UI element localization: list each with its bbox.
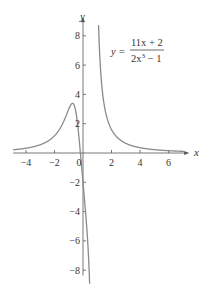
x-tick-label: −4: [21, 157, 32, 168]
equation-label: y = 11x + 2 2x3 − 1: [110, 37, 164, 64]
curve-left-branch: [13, 103, 90, 283]
x-tick-label: 0: [77, 157, 82, 168]
equation-numerator: 11x + 2: [131, 37, 163, 48]
y-tick-label: −6: [69, 235, 80, 246]
x-tick-label: 4: [138, 157, 143, 168]
y-tick-label: −2: [69, 177, 80, 188]
x-tick-label: −2: [49, 157, 60, 168]
function-plot: y x y = 11x + 2 2x3 − 1 −4−20246−8−6−4−2…: [0, 0, 208, 292]
equation-denominator: 2x3 − 1: [131, 52, 161, 64]
y-tick-label: 8: [75, 30, 80, 41]
axes: [13, 17, 189, 275]
x-tick-label: 6: [166, 157, 171, 168]
x-axis-label: x: [193, 146, 199, 158]
y-tick-label: −4: [69, 206, 80, 217]
y-tick-label: 6: [75, 60, 80, 71]
y-tick-label: 2: [75, 118, 80, 129]
y-tick-label: −8: [69, 265, 80, 276]
x-tick-label: 2: [109, 157, 114, 168]
equation-lhs: y =: [110, 46, 125, 57]
axis-labels: y x: [79, 10, 199, 158]
y-tick-label: 4: [75, 89, 80, 100]
x-axis-arrow-icon: [184, 151, 189, 155]
y-axis-label: y: [79, 10, 85, 22]
